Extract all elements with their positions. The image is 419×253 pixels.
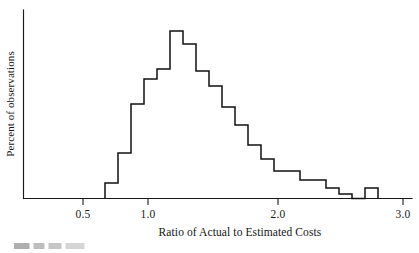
x-axis-ticks — [83, 199, 403, 206]
y-axis-title: Percent of observations — [4, 51, 16, 157]
histogram-chart: 0.5 1.0 2.0 3.0 Ratio of Actual to Estim… — [0, 0, 419, 253]
histogram-step-outline — [105, 31, 378, 199]
x-tick-label-1: 1.0 — [141, 208, 156, 220]
x-tick-label-3: 3.0 — [396, 208, 411, 220]
figure-container: 0.5 1.0 2.0 3.0 Ratio of Actual to Estim… — [0, 0, 419, 253]
x-tick-label-0: 0.5 — [76, 208, 91, 220]
x-tick-label-2: 2.0 — [271, 208, 286, 220]
x-axis-title: Ratio of Actual to Estimated Costs — [159, 226, 322, 238]
